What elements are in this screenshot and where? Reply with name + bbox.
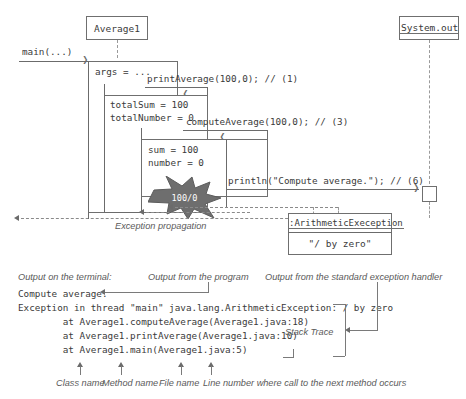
- legend-stem-file: [181, 366, 182, 375]
- exception-escape-line: [16, 218, 313, 219]
- exception-return-print: [104, 212, 142, 213]
- message-printaverage-label: printAverage(100,0); // (1): [147, 73, 298, 84]
- terminal-line-3: at Average1.printAverage(Average1.java:1…: [18, 330, 298, 341]
- legend-stem-line-number: [211, 366, 212, 375]
- caption-output-handler: Output from the standard exception handl…: [265, 272, 442, 282]
- legend-stem-class: [80, 366, 81, 375]
- activation-computeaverage-local-1: number = 0: [148, 157, 204, 168]
- participant-box-average1: Average1: [86, 16, 148, 40]
- message-main-arrow-line: [19, 61, 88, 62]
- terminal-line-4: at Average1.main(Average1.java:5): [18, 344, 248, 355]
- participant-box-systemout: System.out: [399, 16, 459, 40]
- message-computeaverage-drop: [267, 130, 268, 139]
- handler-output-pointer-vertical: [377, 282, 378, 330]
- stack-trace-bracket-side: [345, 304, 346, 356]
- legend-label-class-name: Class name: [56, 378, 105, 388]
- stack-trace-bracket-bottom: [333, 356, 345, 357]
- exception-propagation-label: Exception propagation: [115, 221, 206, 231]
- activation-printaverage-local-1: totalNumber = 0: [110, 112, 194, 123]
- message-main-label: main(...): [22, 46, 72, 57]
- message-println-line: [226, 189, 419, 190]
- activation-main-left-edge: [88, 61, 89, 213]
- legend-label-file-name: File name: [159, 378, 199, 388]
- exception-star-label: 100/0: [148, 193, 221, 203]
- exception-return-from-object-arrowhead: [168, 204, 173, 210]
- trace-stub-1-vertical: [293, 349, 294, 357]
- sequence-diagram-canvas: Average1 System.out main(...) ❯ args = .…: [0, 0, 466, 399]
- activation-main-bottom-drop: [88, 213, 89, 219]
- participant-label-average1: Average1: [87, 23, 147, 34]
- message-computeaverage-line: [183, 130, 268, 131]
- participant-label-systemout: System.out: [400, 22, 458, 34]
- stack-trace-bracket-top: [333, 304, 345, 305]
- lifeline-systemout: [429, 40, 430, 189]
- message-printaverage-drop: [207, 87, 208, 95]
- activation-computeaverage-local-0: sum = 100: [148, 144, 198, 155]
- lifeline-average1: [117, 40, 118, 58]
- program-output-pointer-arrowhead: [100, 289, 105, 295]
- legend-stem-method: [121, 366, 122, 375]
- message-printaverage-line: [145, 87, 208, 88]
- exception-object-message: "/ by zero": [288, 238, 392, 249]
- caption-output-program: Output from the program: [148, 272, 249, 282]
- lifeline-systemout-lower: [429, 202, 430, 218]
- participant-label-systemout-text: System.out: [400, 22, 459, 34]
- activation-printaverage-local-0: totalSum = 100: [110, 99, 188, 110]
- program-output-pointer-vertical: [208, 282, 209, 292]
- activation-main-local-0: args = ...: [95, 66, 151, 77]
- exception-object-name-wrap: :ArithmeticExeception: [288, 217, 392, 229]
- handler-output-pointer-horizontal: [350, 330, 378, 331]
- trace-stub-1-horizontal: [283, 357, 294, 358]
- message-println-label: println("Compute average."); // (6): [228, 175, 424, 186]
- activation-printaverage-left-edge: [104, 95, 105, 213]
- caption-output-terminal: Output on the terminal:: [18, 272, 111, 282]
- message-computeaverage-label: computeAverage(100,0); // (3): [186, 116, 348, 127]
- terminal-line-2: at Average1.computeAverage(Average1.java…: [18, 316, 309, 327]
- activation-computeaverage-right-edge: [226, 139, 227, 207]
- exception-object-name: :ArithmeticExeception: [288, 218, 404, 229]
- terminal-line-0: Compute average.: [18, 288, 108, 299]
- stack-trace-label: Stack Trace: [285, 327, 333, 337]
- exception-escape-arrowhead: [14, 215, 19, 221]
- legend-label-line-number: Line number where call to the next metho…: [203, 378, 406, 388]
- activation-systemout: [422, 186, 437, 202]
- program-output-pointer-horizontal: [104, 292, 209, 293]
- exception-return-compute: [141, 212, 250, 213]
- legend-label-method-name: Method name: [102, 378, 158, 388]
- message-println-arrowhead: ❯: [413, 182, 419, 193]
- exception-object-divider: [288, 232, 392, 233]
